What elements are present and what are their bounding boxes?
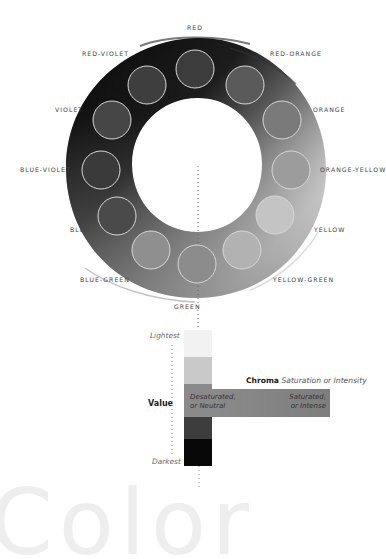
desaturated-line2: or Neutral: [190, 402, 236, 411]
saturated-line1: Saturated,: [288, 393, 326, 402]
desaturated-label: Desaturated, or Neutral: [190, 393, 236, 411]
value-segment-5: [184, 439, 212, 466]
chroma-label: Chroma: [246, 376, 279, 385]
saturated-label: Saturated, or Intense: [288, 393, 326, 411]
chroma-subtitle: Saturation or Intensity: [281, 376, 366, 385]
saturated-line2: or Intense: [288, 402, 326, 411]
chroma-title: Chroma Saturation or Intensity: [246, 376, 367, 385]
desaturated-line1: Desaturated,: [190, 393, 236, 402]
background-word: Color: [0, 470, 255, 559]
value-segment-1: [184, 330, 212, 357]
value-segment-2: [184, 357, 212, 384]
